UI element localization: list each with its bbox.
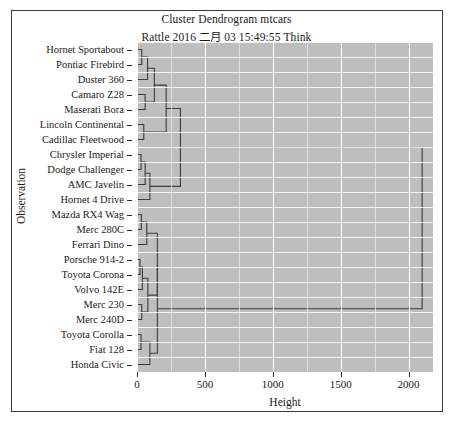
- y-axis-tick-label: Honda Civic: [71, 359, 124, 371]
- x-axis-tick-label: 0: [117, 378, 157, 390]
- hgrid: [137, 207, 433, 208]
- y-axis-tick-label: Merc 280C: [76, 224, 124, 236]
- x-axis-tick-mark: [205, 372, 206, 377]
- y-axis-tick-mark: [127, 110, 132, 111]
- y-axis-tick-label: Toyota Corolla: [61, 329, 124, 341]
- x-axis-tick-label: 2000: [389, 378, 429, 390]
- dendrogram-branch: [145, 68, 154, 102]
- y-axis-tick-label: Dodge Challenger: [47, 164, 124, 176]
- y-axis-tick-mark: [127, 350, 132, 351]
- hgrid: [137, 72, 433, 73]
- plot-panel: [137, 42, 433, 372]
- y-axis-tick-label: Merc 230: [83, 299, 124, 311]
- chart-title: Cluster Dendrogram mtcars: [0, 13, 453, 25]
- y-axis-tick-label: Maserati Bora: [64, 104, 124, 116]
- y-axis-labels: Hornet SportaboutPontiac FirebirdDuster …: [24, 42, 132, 372]
- hgrid: [137, 357, 433, 358]
- y-axis-tick-mark: [127, 335, 132, 336]
- x-axis-tick-mark: [409, 372, 410, 377]
- y-axis-tick-mark: [127, 200, 132, 201]
- hgrid: [137, 297, 433, 298]
- y-axis-tick-label: Chrysler Imperial: [50, 149, 124, 161]
- hgrid: [137, 327, 433, 328]
- hgrid: [137, 162, 433, 163]
- y-axis-tick-mark: [127, 125, 132, 126]
- hgrid: [137, 222, 433, 223]
- x-axis-tick-label: 500: [185, 378, 225, 390]
- y-axis-tick-mark: [127, 155, 132, 156]
- hgrid: [137, 282, 433, 283]
- y-axis-tick-mark: [127, 185, 132, 186]
- y-axis-tick-label: Ferrari Dino: [72, 239, 124, 251]
- y-axis-tick-label: Porsche 914-2: [64, 254, 124, 266]
- x-axis-tick-label: 1000: [253, 378, 293, 390]
- dendrogram-branch: [144, 85, 166, 132]
- x-axis-title: Height: [137, 396, 433, 408]
- hgrid: [137, 192, 433, 193]
- x-axis-tick-mark: [137, 372, 138, 377]
- y-axis-tick-mark: [127, 365, 132, 366]
- y-axis-tick-label: Pontiac Firebird: [56, 59, 124, 71]
- dendrogram-branch: [137, 342, 150, 365]
- hgrid: [137, 102, 433, 103]
- hgrid: [137, 177, 433, 178]
- y-axis-tick-label: Hornet 4 Drive: [60, 194, 124, 206]
- dendrogram-branch: [150, 264, 157, 353]
- hgrid: [137, 132, 433, 133]
- y-axis-tick-mark: [127, 80, 132, 81]
- hgrid: [137, 42, 433, 43]
- y-axis-tick-mark: [127, 290, 132, 291]
- y-axis-title: Observation: [15, 141, 27, 251]
- hgrid: [137, 312, 433, 313]
- hgrid: [137, 87, 433, 88]
- y-axis-tick-label: AMC Javelin: [68, 179, 124, 191]
- y-axis-tick-label: Mazda RX4 Wag: [52, 209, 124, 221]
- y-axis-tick-label: Cadillac Fleetwood: [42, 134, 124, 146]
- y-axis-tick-label: Camaro Z28: [71, 89, 124, 101]
- y-axis-tick-label: Hornet Sportabout: [46, 44, 124, 56]
- y-axis-tick-mark: [127, 170, 132, 171]
- x-axis-tick-mark: [341, 372, 342, 377]
- hgrid: [137, 147, 433, 148]
- y-axis-tick-mark: [127, 65, 132, 66]
- y-axis-tick-label: Fiat 128: [89, 344, 124, 356]
- y-axis-tick-mark: [127, 320, 132, 321]
- hgrid: [137, 342, 433, 343]
- y-axis-tick-mark: [127, 95, 132, 96]
- y-axis-tick-mark: [127, 305, 132, 306]
- y-axis-tick-mark: [127, 230, 132, 231]
- y-axis-tick-mark: [127, 275, 132, 276]
- y-axis-tick-mark: [127, 140, 132, 141]
- hgrid: [137, 117, 433, 118]
- hgrid: [137, 57, 433, 58]
- y-axis-tick-mark: [127, 245, 132, 246]
- y-axis-tick-mark: [127, 260, 132, 261]
- y-axis-tick-label: Merc 240D: [76, 314, 124, 326]
- dendrogram-branch: [157, 147, 422, 308]
- hgrid: [137, 252, 433, 253]
- x-axis-tick-mark: [273, 372, 274, 377]
- y-axis-tick-label: Lincoln Continental: [40, 119, 124, 131]
- y-axis-tick-label: Duster 360: [78, 74, 124, 86]
- y-axis-tick-label: Toyota Corona: [61, 269, 124, 281]
- x-axis-tick-label: 1500: [321, 378, 361, 390]
- y-axis-tick-label: Volvo 142E: [74, 284, 124, 296]
- y-axis-tick-mark: [127, 215, 132, 216]
- hgrid: [137, 267, 433, 268]
- y-axis-tick-mark: [127, 50, 132, 51]
- hgrid: [137, 237, 433, 238]
